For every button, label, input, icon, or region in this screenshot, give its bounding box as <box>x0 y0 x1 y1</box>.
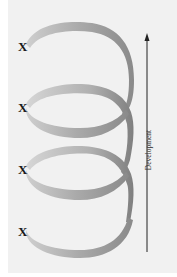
marker-x-2: X <box>18 101 27 114</box>
marker-x-4: X <box>18 225 27 238</box>
marker-x-3: X <box>18 163 27 176</box>
development-axis-label: Development <box>144 130 153 170</box>
marker-x-1: X <box>18 40 27 53</box>
spiral-loop-3 <box>26 146 134 222</box>
arrowhead-up-icon <box>145 33 150 41</box>
spiral-loop-4 <box>26 218 133 258</box>
